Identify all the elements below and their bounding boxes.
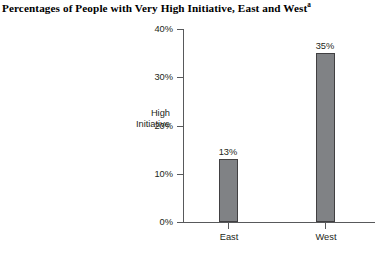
y-axis-tick-label-10-wrap: 10% bbox=[131, 169, 173, 180]
x-axis-line bbox=[183, 222, 375, 223]
bar-east[interactable] bbox=[219, 159, 238, 222]
y-axis-tick-label-0-wrap: 0% bbox=[131, 217, 173, 228]
chart-title-footnote-marker: a bbox=[307, 1, 311, 9]
bar-west[interactable] bbox=[316, 53, 335, 222]
x-axis-category-label-east: East bbox=[199, 232, 259, 242]
chart-title: Percentages of People with Very High Ini… bbox=[2, 2, 311, 14]
x-axis-tick-east bbox=[228, 223, 229, 229]
bar-value-label-west: 35% bbox=[302, 41, 348, 51]
x-axis-category-label-west: West bbox=[296, 232, 356, 242]
y-axis-line bbox=[183, 29, 184, 223]
y-axis-tick-label-30: 30% bbox=[133, 72, 173, 82]
y-axis-tick-label-30-wrap: 30% bbox=[131, 72, 173, 83]
y-axis-tick-0 bbox=[177, 222, 183, 223]
y-axis-title-line-2: Initiative bbox=[92, 119, 170, 130]
x-axis-tick-west bbox=[325, 223, 326, 229]
bar-value-label-east: 13% bbox=[205, 147, 251, 157]
y-axis-title: High Initiative bbox=[92, 108, 170, 130]
y-axis-tick-label-40-wrap: 40% bbox=[131, 24, 173, 35]
y-axis-title-line-1: High bbox=[92, 108, 170, 119]
y-axis-tick-10 bbox=[177, 174, 183, 175]
y-axis-tick-20 bbox=[177, 126, 183, 127]
y-axis-tick-label-10: 10% bbox=[133, 169, 173, 179]
y-axis-tick-40 bbox=[177, 29, 183, 30]
y-axis-tick-label-40: 40% bbox=[133, 24, 173, 34]
y-axis-tick-label-0: 0% bbox=[133, 217, 173, 227]
y-axis-tick-30 bbox=[177, 77, 183, 78]
chart-title-text: Percentages of People with Very High Ini… bbox=[2, 2, 307, 14]
